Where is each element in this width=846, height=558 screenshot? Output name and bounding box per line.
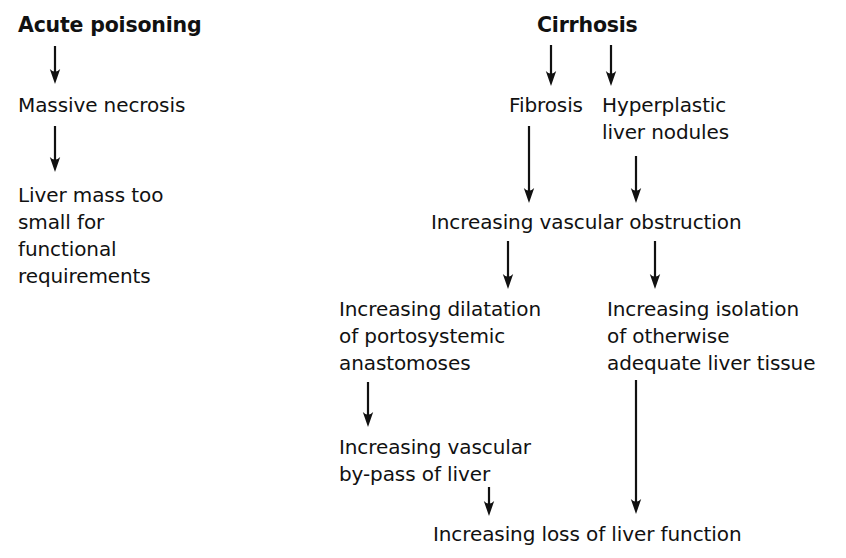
arrow-isolation-to-loss bbox=[631, 380, 641, 514]
arrow-obstruction-to-isolation bbox=[650, 241, 660, 289]
node-hyperplastic-liver-nodules: Hyperplastic liver nodules bbox=[602, 92, 729, 146]
node-increasing-vascular-by-pass: Increasing vascular by-pass of liver bbox=[339, 434, 531, 488]
arrow-fibrosis-to-obstruction bbox=[524, 126, 534, 203]
node-cirrhosis: Cirrhosis bbox=[537, 12, 638, 39]
node-acute-poisoning: Acute poisoning bbox=[18, 12, 201, 39]
node-increasing-loss-of-liver-function: Increasing loss of liver function bbox=[433, 521, 741, 548]
arrow-by-pass-to-loss bbox=[484, 487, 494, 516]
node-liver-mass-too-small: Liver mass too small for functional requ… bbox=[18, 182, 163, 290]
flowchart-diagram: Acute poisoningMassive necrosisLiver mas… bbox=[0, 0, 846, 558]
node-fibrosis: Fibrosis bbox=[509, 92, 583, 119]
arrow-cirrhosis-to-nodules bbox=[606, 45, 616, 86]
node-increasing-dilatation: Increasing dilatation of portosystemic a… bbox=[339, 296, 541, 377]
node-increasing-vascular-obstruction: Increasing vascular obstruction bbox=[431, 209, 742, 236]
arrow-necrosis-to-liver-mass bbox=[50, 126, 60, 172]
node-massive-necrosis: Massive necrosis bbox=[18, 92, 185, 119]
arrow-dilatation-to-by-pass bbox=[363, 382, 373, 427]
arrow-acute-to-necrosis bbox=[50, 46, 60, 84]
node-increasing-isolation: Increasing isolation of otherwise adequa… bbox=[607, 296, 815, 377]
arrow-obstruction-to-dilatation bbox=[503, 241, 513, 289]
arrow-nodules-to-obstruction bbox=[631, 156, 641, 203]
arrow-cirrhosis-to-fibrosis bbox=[546, 45, 556, 86]
